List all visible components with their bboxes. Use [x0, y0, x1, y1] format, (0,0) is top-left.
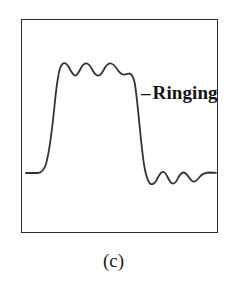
plot-frame: –Ringing: [21, 19, 218, 233]
annotation-dash-icon: –: [141, 82, 153, 103]
annotation-text: Ringing: [153, 82, 218, 103]
waveform-plot: [22, 20, 219, 234]
ringing-annotation: –Ringing: [141, 82, 218, 104]
figure-caption: (c): [0, 250, 227, 272]
figure-container: –Ringing (c): [0, 0, 227, 285]
